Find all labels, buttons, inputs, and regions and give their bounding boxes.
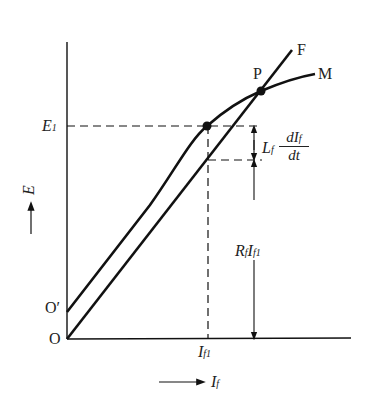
lf-sub: f [271,144,274,155]
label-o-prime: O′ [45,300,60,316]
point-e1 [203,122,212,131]
rf-main: R [235,242,245,259]
diagram-canvas [0,0,369,409]
lf-main: L [262,139,271,156]
x-axis-label: If [211,374,219,390]
label-if1: If1 [198,344,211,360]
e1-main: E [42,117,52,134]
frac-den: dt [288,148,300,163]
magnetization-curve-M [67,74,315,312]
rif-sub2: 1 [256,247,261,258]
num-sub: f [299,133,302,144]
label-p: P [253,66,262,82]
label-f: F [297,42,306,58]
frac-num: dIf [286,130,301,145]
dif-dt-fraction: dIf dt [279,130,309,163]
label-e1: E1 [42,118,57,134]
x-axis [67,338,351,339]
x-axis-sub: f [216,378,219,389]
y-axis-label: E [21,185,37,195]
label-lf: Lf [262,140,274,156]
e1-sub: 1 [52,122,57,133]
label-o: O [49,331,61,347]
label-rf-if1: RfIf1 [235,242,261,260]
if1-sub2: 1 [206,348,211,359]
num-main: dI [286,129,299,145]
label-m: M [318,66,332,82]
point-p [257,87,266,96]
